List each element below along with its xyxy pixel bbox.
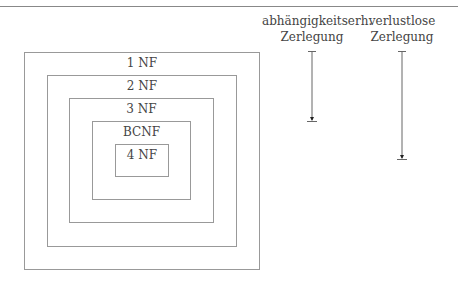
arrows-layer	[0, 0, 458, 282]
arrowhead-dependency-preserving	[310, 117, 314, 121]
arrow-dependency-preserving	[307, 52, 317, 122]
arrow-lossless	[397, 52, 407, 160]
arrowhead-lossless	[400, 155, 404, 159]
